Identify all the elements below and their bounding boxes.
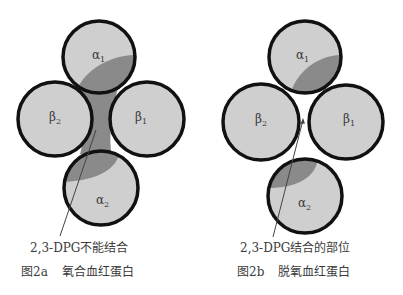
subunit-index: 1 xyxy=(350,119,355,128)
subunit-symbol: α xyxy=(296,48,304,62)
subunit-symbol: β xyxy=(135,110,142,124)
annotation-b: 2,3-DPG结合的部位 xyxy=(240,238,350,255)
subunit-index: 1 xyxy=(100,55,105,64)
caption-b: 图2b脱氧血红蛋白 xyxy=(237,262,350,279)
caption-title: 脱氧血红蛋白 xyxy=(278,265,350,279)
label-a-alpha1: α1 xyxy=(92,48,105,64)
label-a-alpha2: α2 xyxy=(96,193,109,209)
subunit-symbol: β xyxy=(49,110,56,124)
subunit-index: 1 xyxy=(142,117,147,126)
caption-number: 图2b xyxy=(237,265,264,279)
subunit-index: 2 xyxy=(262,119,267,128)
subunit-symbol: α xyxy=(92,48,100,62)
subunit-symbol: β xyxy=(343,112,350,126)
label-a-beta1: β1 xyxy=(135,110,147,126)
label-a-beta2: β2 xyxy=(49,110,61,126)
subunit-index: 2 xyxy=(56,117,61,126)
subunit-symbol: α xyxy=(298,196,306,210)
annotation-a: 2,3-DPG不能结合 xyxy=(30,238,128,255)
caption-a: 图2a氧合血红蛋白 xyxy=(21,262,134,279)
subunit-alpha2 xyxy=(60,150,138,225)
caption-title: 氧合血红蛋白 xyxy=(62,265,134,279)
subunit-symbol: α xyxy=(96,193,104,207)
subunit-index: 2 xyxy=(306,203,311,212)
subunit-index: 1 xyxy=(304,55,309,64)
label-b-alpha2: α2 xyxy=(298,196,311,212)
label-b-beta1: β1 xyxy=(343,112,355,128)
label-b-beta2: β2 xyxy=(255,112,267,128)
label-b-alpha1: α1 xyxy=(296,48,309,64)
subunit-symbol: β xyxy=(255,112,262,126)
subunit-index: 2 xyxy=(104,200,109,209)
caption-number: 图2a xyxy=(21,265,48,279)
